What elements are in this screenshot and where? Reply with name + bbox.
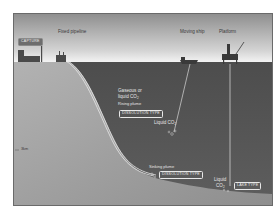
depth-marker-label: 3km — [21, 148, 28, 152]
moving-ship-label: Moving ship — [180, 30, 205, 35]
liquid-co2-mid-label: Liquid CO2 — [154, 121, 176, 126]
platform-label: Platform — [219, 30, 236, 35]
dissolution-type-lower-tag: DISSOLUTION TYPE — [159, 171, 203, 179]
gaseous-label-line1: Gaseous or — [118, 89, 142, 94]
sinking-plume-label: Sinking plume — [149, 165, 174, 169]
gaseous-label-line2: liquid CO2 — [118, 95, 139, 100]
fixed-pipeline-label: Fixed pipeline — [58, 30, 86, 35]
lake-type-tag: LAKE TYPE — [234, 182, 261, 190]
capture-tag: CAPTURE — [18, 38, 43, 46]
dissolution-type-upper-tag: DISSOLUTION TYPE — [119, 110, 163, 118]
liquid-bottom-label-line1: Liquid — [214, 178, 226, 183]
liquid-bottom-label-line2: CO2 — [216, 184, 225, 189]
diagram-frame: CAPTURE Fixed pipeline Moving ship Platf… — [13, 13, 273, 206]
rising-plume-label: Rising plume — [118, 102, 141, 106]
